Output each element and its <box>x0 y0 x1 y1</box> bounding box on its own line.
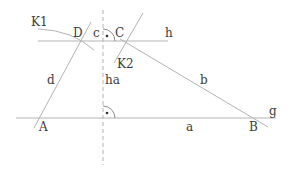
right-angle-dot-top <box>106 35 109 38</box>
label-point-a: A <box>38 120 48 134</box>
label-line-h: h <box>165 26 173 40</box>
label-side-b: b <box>200 73 208 87</box>
right-angle-mark-top <box>103 29 115 41</box>
right-angle-dot-bottom <box>106 112 109 115</box>
label-point-b: B <box>249 120 258 134</box>
label-point-d: D <box>73 26 83 40</box>
label-side-d: d <box>47 73 55 87</box>
side-b-line <box>120 39 268 127</box>
label-side-a: a <box>186 120 193 134</box>
right-angle-mark-bottom <box>103 106 115 118</box>
label-side-c: c <box>93 26 100 40</box>
label-line-g: g <box>269 104 277 118</box>
trapezoid-construction-diagram: K1 D c C h K2 d ha b g A a B <box>0 0 292 169</box>
label-k2: K2 <box>117 57 134 71</box>
label-point-c: C <box>115 26 124 40</box>
label-height-ha: ha <box>105 73 120 87</box>
label-k1: K1 <box>31 15 48 29</box>
